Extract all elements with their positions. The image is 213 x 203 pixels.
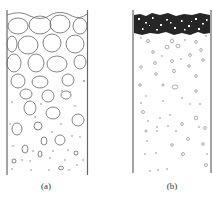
panel-b-label: (b) — [157, 181, 187, 191]
panel-b-container — [133, 10, 211, 173]
diagram-canvas — [0, 0, 213, 203]
panel-a-label: (a) — [31, 181, 61, 191]
panel-a-small-particles — [9, 80, 85, 171]
panel-b-dense-layer — [134, 13, 210, 35]
panel-a-container — [7, 10, 88, 175]
panel-b-small-dots — [140, 35, 208, 172]
panel-b-particles — [139, 39, 208, 167]
